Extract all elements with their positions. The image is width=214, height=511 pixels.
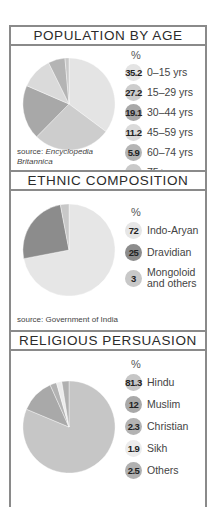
legend-label: 30–44 yrs <box>147 107 193 118</box>
legend-label: 45–59 yrs <box>147 127 193 138</box>
legend-item: 25Dravidian <box>125 241 198 263</box>
legend-label: Muslim <box>147 399 180 410</box>
ethnic-composition-section: % 72Indo-Aryan25Dravidian3Mongoloidand o… <box>11 191 205 331</box>
value-badge: 5.9 <box>125 144 142 161</box>
ethnic-legend: % 72Indo-Aryan25Dravidian3Mongoloidand o… <box>125 205 198 293</box>
legend-item: 1.9Sikh <box>125 437 188 459</box>
section-title-religion: RELIGIOUS PERSUASION <box>11 330 205 351</box>
value-badge: 3 <box>125 270 142 287</box>
legend-label: Indo-Aryan <box>147 225 198 236</box>
value-badge: 2.3 <box>125 418 142 435</box>
unit-label: % <box>131 205 198 219</box>
legend-item: 5.960–74 yrs <box>125 142 193 162</box>
legend-item: 81.3Hindu <box>125 371 188 393</box>
value-badge: 1.9 <box>125 440 142 457</box>
value-badge: 72 <box>125 222 142 239</box>
legend-item: 27.215–29 yrs <box>125 82 193 102</box>
legend-label: 60–74 yrs <box>147 147 193 158</box>
legend-label: 0–15 yrs <box>147 67 187 78</box>
value-badge: 25 <box>125 244 142 261</box>
legend-label: 15–29 yrs <box>147 87 193 98</box>
religion-pie-chart <box>21 379 117 475</box>
religious-persuasion-section: % 81.3Hindu12Muslim2.3Christian1.9Sikh2.… <box>11 351 205 511</box>
legend-label: Mongoloidand others <box>147 267 197 289</box>
value-badge: 12 <box>125 396 142 413</box>
source-name: Government of India <box>45 315 117 324</box>
population-legend: % 35.20–15 yrs27.215–29 yrs19.130–44 yrs… <box>125 48 193 182</box>
legend-label: Dravidian <box>147 247 191 258</box>
legend-label: Christian <box>147 421 188 432</box>
section-title-population: POPULATION BY AGE <box>11 27 205 46</box>
legend-item: 72Indo-Aryan <box>125 219 198 241</box>
legend-item: 35.20–15 yrs <box>125 62 193 82</box>
value-badge: 2.5 <box>125 462 142 479</box>
population-by-age-section: % 35.20–15 yrs27.215–29 yrs19.130–44 yrs… <box>11 46 205 172</box>
legend-label: Sikh <box>147 443 167 454</box>
infographic-panel: POPULATION BY AGE % 35.20–15 yrs27.215–2… <box>9 25 207 507</box>
value-badge: 81.3 <box>125 374 142 391</box>
source-note: source: Encyclopedia Britannica <box>17 147 117 167</box>
legend-item: 19.130–44 yrs <box>125 102 193 122</box>
value-badge: 11.2 <box>125 124 142 141</box>
source-note: source: Government of India <box>17 315 118 325</box>
ethnic-pie-chart <box>21 202 117 298</box>
unit-label: % <box>131 357 188 371</box>
legend-item: 11.245–59 yrs <box>125 122 193 142</box>
legend-item: 3Mongoloidand others <box>125 263 198 293</box>
legend-label: Hindu <box>147 377 174 388</box>
legend-label: Others <box>147 465 179 476</box>
value-badge: 19.1 <box>125 104 142 121</box>
legend-item: 12Muslim <box>125 393 188 415</box>
population-pie-chart <box>21 56 117 152</box>
legend-item: 2.3Christian <box>125 415 188 437</box>
legend-item: 2.5Others <box>125 459 188 481</box>
unit-label: % <box>131 48 193 62</box>
religion-legend: % 81.3Hindu12Muslim2.3Christian1.9Sikh2.… <box>125 357 188 481</box>
section-title-ethnic: ETHNIC COMPOSITION <box>11 170 205 191</box>
value-badge: 35.2 <box>125 64 142 81</box>
value-badge: 27.2 <box>125 84 142 101</box>
